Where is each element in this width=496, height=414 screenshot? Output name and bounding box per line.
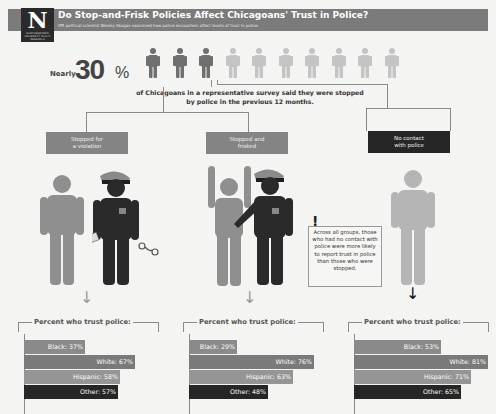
connector-line — [366, 108, 450, 109]
category-label: No contact — [394, 135, 424, 142]
connector-line — [86, 112, 87, 132]
page-subtitle: IPR political scientist Wesley Skogan ex… — [58, 23, 259, 28]
bar-other: Other: 57% — [24, 385, 118, 399]
connector-line — [86, 112, 249, 113]
logo: N NORTHWESTERN UNIVERSITY POLICY RESEARC… — [21, 8, 54, 42]
civilian-figure-icon — [38, 175, 86, 285]
bracket-line — [348, 322, 349, 332]
person-icon — [279, 48, 293, 78]
stat-caption-line2: by police in the previous 12 months. — [130, 97, 370, 106]
civilian-no-contact-icon — [390, 170, 436, 286]
person-icon — [173, 48, 187, 78]
bar-other: Other: 65% — [354, 385, 461, 399]
bracket-line — [323, 322, 324, 332]
page-title: Do Stop-and-Frisk Policies Affect Chicag… — [58, 10, 368, 20]
connector-line — [248, 112, 249, 132]
category-stopped-violation: Stopped fora violation — [46, 132, 128, 154]
logo-subtext: NORTHWESTERN UNIVERSITY POLICY RESEARCH — [21, 32, 54, 41]
person-icon — [199, 48, 213, 78]
person-icon — [252, 48, 266, 78]
person-icon — [358, 48, 372, 78]
stat-prefix: Nearly — [50, 70, 76, 78]
person-icon — [226, 48, 240, 78]
bracket-line — [18, 322, 19, 332]
bracket-line — [183, 322, 184, 332]
bar-white: White: 67% — [24, 355, 135, 369]
bar-black: Black: 29% — [189, 340, 237, 354]
person-icon — [305, 48, 319, 78]
stat-caption: of Chicagoans in a representative survey… — [130, 88, 370, 106]
bar-hispanic: Hispanic: 63% — [189, 370, 293, 384]
bar-white: White: 81% — [354, 355, 488, 369]
connector-line — [211, 80, 212, 87]
connector-line — [450, 108, 451, 131]
arrow-down-icon: ↓ — [406, 286, 419, 302]
person-icon — [146, 48, 160, 78]
bar-black: Black: 37% — [24, 340, 85, 354]
connector-line — [387, 84, 388, 108]
panel-title: Percent who trust police: — [32, 318, 133, 326]
person-icon — [385, 48, 399, 78]
bar-black: Black: 53% — [354, 340, 441, 354]
category-label: Stopped for — [71, 136, 103, 143]
police-officer-icon — [92, 168, 162, 286]
category-no-contact: No contactwith police — [368, 131, 450, 153]
bar-white: White: 76% — [189, 355, 314, 369]
bar-other: Other: 48% — [189, 385, 268, 399]
person-icon — [332, 48, 346, 78]
panel-title: Percent who trust police: — [197, 318, 298, 326]
callout-note: Across all groups, those who had no cont… — [308, 226, 382, 287]
bar-hispanic: Hispanic: 58% — [24, 370, 120, 384]
category-label: frisked — [230, 143, 265, 150]
handcuffs-icon — [139, 243, 158, 255]
police-frisking-icon — [232, 166, 294, 286]
logo-letter: N — [21, 8, 54, 32]
bracket-line — [488, 322, 489, 332]
bar-hispanic: Hispanic: 71% — [354, 370, 471, 384]
arrow-down-icon: ↓ — [80, 290, 93, 306]
bracket-line — [158, 322, 159, 332]
arrow-down-icon: ↓ — [243, 290, 256, 306]
category-stopped-frisked: Stopped andfrisked — [206, 132, 288, 154]
category-label: with police — [394, 142, 424, 149]
category-label: a violation — [71, 143, 103, 150]
connector-line — [217, 84, 387, 85]
stat-unit: % — [115, 64, 129, 82]
stat-caption-line1: of Chicagoans in a representative survey… — [130, 88, 370, 97]
panel-title: Percent who trust police: — [362, 318, 463, 326]
connector-line — [366, 108, 367, 131]
category-label: Stopped and — [230, 136, 265, 143]
connector-line — [163, 87, 164, 112]
stat-value: 30 — [75, 54, 104, 86]
